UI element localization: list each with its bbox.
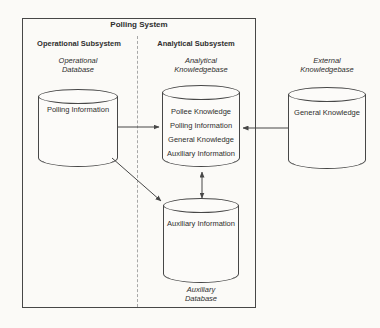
auxiliary-database-cylinder: Auxiliary Information	[163, 198, 239, 283]
external-knowledgebase-cylinder: General Knowledge	[288, 87, 366, 169]
auxiliary-database-items: Auxiliary Information	[160, 217, 242, 231]
analytical-subsystem-heading: Analytical Subsystem	[141, 39, 251, 48]
external-knowledgebase-items: General Knowledge	[285, 106, 369, 120]
cylinder-bottom-arc	[38, 158, 118, 167]
cylinder-top-ellipse	[38, 89, 118, 104]
cylinder-top-ellipse	[163, 198, 239, 213]
auxiliary-database-label-line2: Database	[153, 294, 249, 303]
polling-system-diagram: Polling System Operational Subsystem Ana…	[0, 0, 380, 328]
cylinder-item: Pollee Knowledge	[159, 105, 243, 119]
cylinder-item: General Knowledge	[159, 133, 243, 147]
operational-database-items: Polling Information	[35, 103, 121, 117]
cylinder-item: Polling Information	[159, 119, 243, 133]
cylinder-bottom-arc	[288, 160, 366, 169]
external-knowledgebase-label: External Knowledgebase	[279, 56, 375, 74]
analytical-knowledgebase-label: Analytical Knowledgebase	[153, 56, 249, 74]
subsystem-divider-dashed-line	[137, 36, 138, 307]
diagram-title: Polling System	[22, 20, 256, 30]
operational-subsystem-heading: Operational Subsystem	[24, 39, 134, 48]
operational-database-label-line1: Operational	[30, 56, 126, 65]
cylinder-body	[288, 94, 366, 160]
cylinder-top-ellipse	[162, 85, 240, 100]
cylinder-item: Auxiliary Information	[159, 147, 243, 161]
cylinder-body	[163, 205, 239, 274]
cylinder-top-ellipse	[288, 87, 366, 102]
external-knowledgebase-label-line2: Knowledgebase	[279, 65, 375, 74]
analytical-knowledgebase-label-line1: Analytical	[153, 56, 249, 65]
analytical-knowledgebase-items: Pollee Knowledge Polling Information Gen…	[159, 105, 243, 161]
analytical-knowledgebase-cylinder: Pollee Knowledge Polling Information Gen…	[162, 85, 240, 167]
operational-database-label: Operational Database	[30, 56, 126, 74]
cylinder-item: Auxiliary Information	[160, 217, 242, 231]
operational-database-label-line2: Database	[30, 65, 126, 74]
analytical-knowledgebase-label-line2: Knowledgebase	[153, 65, 249, 74]
cylinder-item: Polling Information	[35, 103, 121, 117]
cylinder-bottom-arc	[163, 274, 239, 283]
operational-database-cylinder: Polling Information	[38, 89, 118, 167]
cylinder-item: General Knowledge	[285, 106, 369, 120]
auxiliary-database-label: Auxiliary Database	[153, 285, 249, 303]
auxiliary-database-label-line1: Auxiliary	[153, 285, 249, 294]
external-knowledgebase-label-line1: External	[279, 56, 375, 65]
